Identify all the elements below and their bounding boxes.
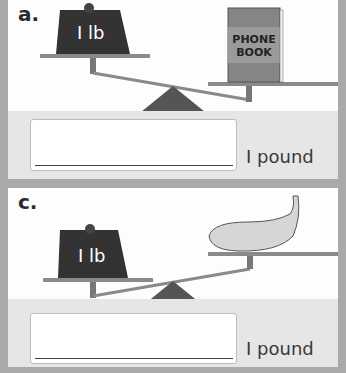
unit-label: I pound (246, 146, 314, 167)
answer-input[interactable] (30, 119, 237, 171)
answer-underline (35, 165, 233, 166)
problem-c: c. I lb I pound (8, 188, 338, 367)
weight-label: I lb (77, 22, 104, 43)
weight-label: I lb (78, 245, 105, 266)
unit-label: I pound (246, 338, 314, 359)
problem-a: a. I lb PHONE BOOK I pound (8, 0, 338, 179)
answer-underline (35, 358, 233, 359)
answer-input[interactable] (30, 313, 237, 364)
phonebook-title: PHONE BOOK (228, 33, 280, 59)
problem-label: c. (18, 190, 37, 214)
problem-label: a. (18, 2, 39, 26)
